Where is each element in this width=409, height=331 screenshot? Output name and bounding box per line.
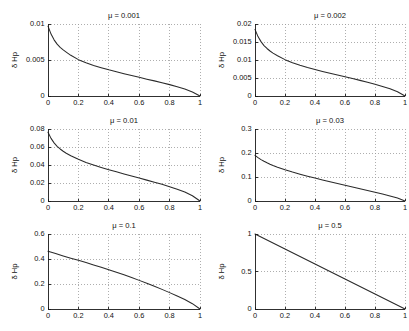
y-tick-label: 0.3 — [241, 124, 251, 133]
x-tick-label: 0 — [46, 203, 50, 212]
x-tick-label: 0.2 — [73, 311, 83, 320]
y-tick-label: 0.4 — [34, 254, 44, 263]
x-tick-label: 0.8 — [164, 203, 174, 212]
y-axis-label: δ Hp — [10, 52, 19, 68]
y-axis-label: δ Hp — [10, 157, 19, 173]
y-tick-label: 0.015 — [233, 37, 252, 46]
y-tick-label: 0.02 — [30, 178, 44, 187]
y-axis-label: δ Hp — [217, 157, 226, 173]
x-tick-label: 0.2 — [73, 203, 83, 212]
grid-lines — [255, 129, 405, 201]
subplot-title: μ = 0.1 — [112, 221, 136, 230]
x-tick-label: 0.6 — [134, 98, 144, 107]
y-tick-label: 0 — [247, 91, 251, 100]
y-tick-label: 0.005 — [26, 55, 45, 64]
x-tick-label: 0.6 — [134, 203, 144, 212]
x-tick-label: 0 — [253, 203, 257, 212]
y-tick-label: 0.01 — [30, 19, 44, 28]
y-tick-label: 1 — [247, 229, 251, 238]
y-tick-label: 0 — [40, 196, 44, 205]
x-tick-label: 0.8 — [370, 203, 380, 212]
x-tick-label: 0.6 — [134, 311, 144, 320]
x-tick-label: 1 — [198, 98, 202, 107]
subplot-2: 00.20.40.60.8100.0050.010.0150.02μ = 0.0… — [205, 4, 409, 109]
x-tick-label: 0.8 — [164, 311, 174, 320]
x-tick-label: 0.2 — [280, 98, 290, 107]
y-tick-label: 0.6 — [34, 229, 44, 238]
y-tick-label: 0.1 — [241, 172, 251, 181]
x-tick-label: 0.4 — [104, 203, 114, 212]
y-tick-label: 0.5 — [241, 267, 251, 276]
grid-lines — [48, 129, 200, 201]
x-tick-label: 0.6 — [340, 203, 350, 212]
figure-canvas: 00.20.40.60.8100.0050.01μ = 0.001δ Hp00.… — [0, 0, 409, 331]
x-tick-label: 0.6 — [340, 311, 350, 320]
grid-lines — [48, 24, 200, 96]
x-tick-label: 0 — [253, 311, 257, 320]
x-tick-label: 0 — [46, 311, 50, 320]
y-tick-label: 0 — [40, 304, 44, 313]
x-tick-label: 0.8 — [370, 311, 380, 320]
grid-lines — [48, 234, 200, 309]
data-curve — [255, 155, 405, 201]
data-curve — [255, 234, 405, 309]
x-tick-label: 0.2 — [280, 311, 290, 320]
x-tick-label: 0.4 — [310, 203, 320, 212]
tick-marks — [48, 234, 200, 309]
y-axis-label: δ Hp — [217, 52, 226, 68]
subplot-title: μ = 0.03 — [316, 116, 344, 125]
x-tick-label: 0.2 — [73, 98, 83, 107]
y-axis-label: δ Hp — [217, 263, 226, 279]
tick-marks — [255, 129, 405, 201]
axis-frame — [255, 129, 405, 201]
subplot-4: 00.20.40.60.8100.10.20.3μ = 0.03δ Hp — [205, 109, 409, 214]
y-tick-label: 0.2 — [34, 279, 44, 288]
y-tick-label: 0 — [247, 196, 251, 205]
x-tick-label: 0.4 — [104, 98, 114, 107]
x-tick-label: 0.8 — [370, 98, 380, 107]
x-tick-label: 1 — [403, 311, 407, 320]
x-tick-label: 1 — [198, 203, 202, 212]
y-tick-label: 0.02 — [237, 19, 251, 28]
x-tick-label: 0.4 — [310, 98, 320, 107]
y-tick-label: 0 — [247, 304, 251, 313]
y-tick-label: 0.04 — [30, 160, 44, 169]
y-axis-label: δ Hp — [10, 263, 19, 279]
x-tick-label: 0.8 — [164, 98, 174, 107]
x-tick-label: 0.6 — [340, 98, 350, 107]
x-tick-label: 0.2 — [280, 203, 290, 212]
y-tick-label: 0.01 — [237, 55, 251, 64]
y-tick-label: 0.2 — [241, 148, 251, 157]
x-tick-label: 0 — [253, 98, 257, 107]
y-tick-label: 0 — [40, 91, 44, 100]
y-tick-label: 0.08 — [30, 124, 44, 133]
data-curve — [48, 251, 200, 309]
subplot-6: 00.20.40.60.8100.51μ = 0.5δ Hp — [205, 214, 409, 331]
x-tick-label: 0.4 — [104, 311, 114, 320]
subplot-title: μ = 0.002 — [314, 11, 346, 20]
subplot-title: μ = 0.5 — [318, 221, 342, 230]
x-tick-label: 0.4 — [310, 311, 320, 320]
x-tick-label: 0 — [46, 98, 50, 107]
data-curve — [255, 29, 405, 96]
x-tick-label: 1 — [403, 98, 407, 107]
data-curve — [48, 132, 200, 201]
grid-lines — [255, 24, 405, 96]
y-tick-label: 0.06 — [30, 142, 44, 151]
x-tick-label: 1 — [198, 311, 202, 320]
subplot-1: 00.20.40.60.8100.0050.01μ = 0.001δ Hp — [0, 4, 205, 109]
y-tick-label: 0.005 — [233, 73, 252, 82]
subplot-5: 00.20.40.60.8100.20.40.6μ = 0.1δ Hp — [0, 214, 205, 331]
subplot-title: μ = 0.01 — [110, 116, 138, 125]
subplot-title: μ = 0.001 — [108, 11, 140, 20]
subplot-3: 00.20.40.60.8100.020.040.060.08μ = 0.01δ… — [0, 109, 205, 214]
x-tick-label: 1 — [403, 203, 407, 212]
axis-frame — [48, 234, 200, 309]
data-curve — [48, 26, 200, 96]
